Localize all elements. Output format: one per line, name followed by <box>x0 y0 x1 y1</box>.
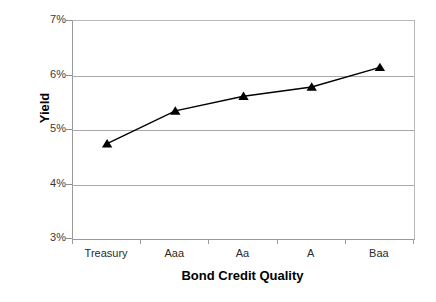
x-axis-tick-mark <box>413 239 414 244</box>
y-axis-tick-label: 4% <box>32 178 66 189</box>
y-axis-tick-label: 6% <box>32 69 66 80</box>
y-axis-tick-mark <box>66 20 72 21</box>
x-axis-tick-mark <box>140 239 141 244</box>
plot-area <box>72 20 415 240</box>
series-line <box>107 67 380 143</box>
x-axis-tick-label: Treasury <box>72 246 140 260</box>
x-axis-tick-mark <box>277 239 278 244</box>
line-chart: Yield 3%4%5%6%7% TreasuryAaaAaABaa <box>0 0 436 302</box>
x-axis-tick-mark <box>72 239 73 244</box>
y-axis-tick-mark <box>66 75 72 76</box>
y-axis-tick-label: 7% <box>32 14 66 25</box>
x-axis-title: Bond Credit Quality <box>72 268 413 283</box>
y-axis-tick-label: 5% <box>32 123 66 134</box>
y-axis-tick-labels: 3%4%5%6%7% <box>32 20 66 238</box>
y-axis-tick-label: 3% <box>32 232 66 243</box>
data-series-yield <box>73 21 414 239</box>
x-axis-tick-label: Baa <box>345 246 413 260</box>
x-axis-tick-label: A <box>277 246 345 260</box>
x-axis-tick-label: Aa <box>208 246 276 260</box>
y-axis-tick-mark <box>66 129 72 130</box>
x-axis-tick-mark <box>345 239 346 244</box>
y-axis-tick-mark <box>66 184 72 185</box>
x-axis-tick-label: Aaa <box>140 246 208 260</box>
data-point-marker <box>102 139 112 147</box>
x-axis-tick-mark <box>208 239 209 244</box>
data-point-marker <box>375 63 385 71</box>
